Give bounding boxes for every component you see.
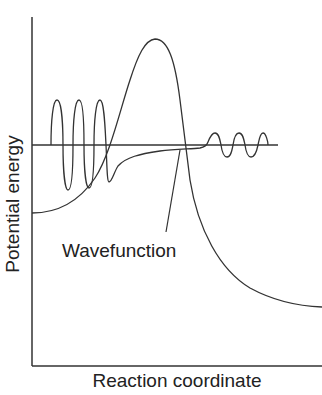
x-axis-label: Reaction coordinate [32,370,322,392]
wavefunction-pointer [166,150,180,232]
potential-energy-barrier-curve [32,39,322,307]
tunnelling-diagram [0,0,322,395]
wavefunction-label: Wavefunction [62,240,176,262]
y-axis-label: Potential energy [2,129,24,279]
